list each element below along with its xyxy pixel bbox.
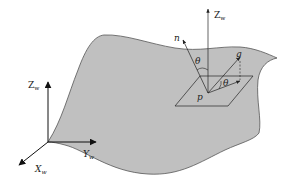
world-x-axis [19, 142, 48, 165]
local-z-label: Zw [214, 10, 226, 21]
angle-plane-label: θ [223, 78, 229, 88]
point-label: p [197, 92, 203, 102]
gravity-label: g [236, 49, 242, 59]
surface-diagram: Zw n θ g θ p Zw Yw Xw [0, 0, 287, 185]
world-z-label: Zw [28, 80, 40, 91]
angle-normal-label: θ [195, 56, 201, 66]
normal-label: n [174, 33, 180, 43]
world-x-label: Xw [34, 164, 47, 175]
